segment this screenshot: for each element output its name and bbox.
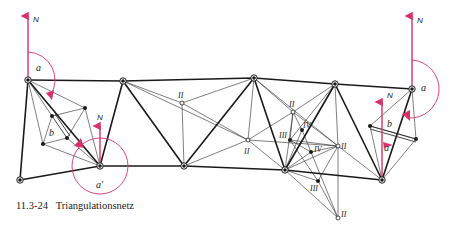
base-label-right: b [387, 118, 392, 129]
order-2-label: II [288, 100, 295, 109]
azimuth-arc-left [28, 52, 55, 96]
figure-title: Triangulationsnetz [56, 200, 134, 211]
order-2-nodes [180, 101, 340, 220]
main-chain [20, 78, 412, 180]
north-label-middle: N [97, 113, 103, 122]
north-label-left: N [33, 15, 39, 24]
order-2-label: II [243, 147, 250, 156]
order-4-label: IV [302, 121, 312, 130]
base-label-left: b [49, 127, 54, 138]
figure-caption: 11.3-24 Triangulationsnetz [16, 200, 134, 211]
secondary-network [28, 78, 416, 218]
order-2-label: II [177, 91, 184, 100]
azimuth-label-right: a [421, 82, 426, 93]
order-3-label: III [309, 184, 318, 193]
azimuth-label-left: a [36, 62, 41, 73]
order-4-label: IV [313, 145, 323, 154]
order-2-label: II [340, 210, 347, 219]
order-2-label: II [340, 142, 347, 151]
azimuth-label-bottom-right: a [384, 142, 389, 153]
azimuth-label-prime: a′ [96, 179, 104, 190]
north-label-bottom-right: N [387, 91, 393, 100]
order-3-label: III [278, 131, 287, 140]
diagram-labels: N N N N a a′ a a b b II II II II II III … [33, 15, 426, 219]
figure-number: 11.3-24 [16, 200, 48, 211]
north-label-right: N [417, 16, 423, 25]
